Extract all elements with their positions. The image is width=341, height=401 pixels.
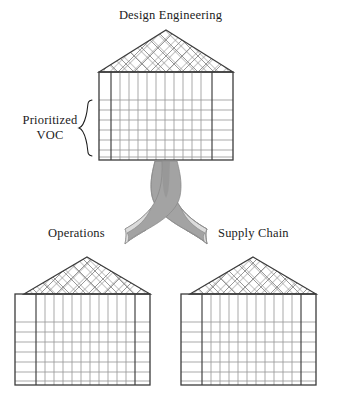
operations-body-outline	[15, 294, 150, 385]
diagram-graphics	[0, 0, 341, 401]
prioritized-voc-label-line1: Prioritized	[14, 113, 86, 128]
prioritized-voc-label: Prioritized VOC	[14, 113, 86, 144]
design-body-outline	[99, 72, 233, 160]
design-body-separators	[111, 72, 212, 160]
supply-chain-body-separators	[202, 294, 301, 385]
supply-chain-label: Supply Chain	[218, 226, 289, 241]
operations-body-separators	[36, 294, 135, 385]
supply-chain-body-grid	[181, 294, 316, 385]
operations-label: Operations	[48, 226, 105, 241]
operations-body-grid	[15, 294, 150, 385]
supply-chain-body-outline	[181, 294, 316, 385]
design-engineering-house	[92, 0, 240, 160]
design-engineering-label: Design Engineering	[0, 8, 341, 23]
prioritized-voc-label-line2: VOC	[14, 128, 86, 143]
operations-house	[15, 217, 157, 385]
diagram-canvas: Design Engineering Prioritized VOC Opera…	[0, 0, 341, 401]
design-body-grid	[99, 72, 233, 160]
